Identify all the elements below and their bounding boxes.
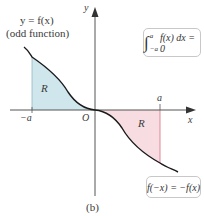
function-note: (odd function): [6, 27, 69, 39]
integral-lower-limit: −a: [150, 46, 158, 53]
odd-function-identity: f(−x) = −f(x): [147, 182, 200, 193]
right-region-label: R: [138, 117, 145, 129]
figure-caption: (b): [86, 201, 99, 213]
integral-sign-icon: ∫: [144, 34, 149, 51]
odd-function-identity-box: f(−x) = −f(x): [146, 176, 201, 198]
function-label: y = f(x): [20, 14, 54, 26]
left-region-label: R: [41, 82, 48, 94]
integral-box: ∫ a −a f(x) dx = 0: [143, 28, 201, 57]
integral-expression: f(x) dx = 0: [160, 32, 200, 54]
tick-label-neg-a: −a: [20, 112, 32, 123]
x-axis-arrow-icon: [186, 107, 196, 114]
integral-upper-limit: a: [150, 33, 158, 40]
origin-label: O: [82, 112, 89, 123]
y-axis-label: y: [84, 2, 88, 13]
tick-label-pos-a: a: [157, 92, 162, 103]
y-axis-arrow-icon: [92, 7, 99, 17]
x-axis-label: x: [188, 114, 192, 125]
